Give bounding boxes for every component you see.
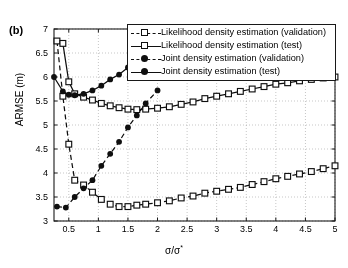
marker-open-square — [332, 163, 338, 169]
marker-open-square — [134, 107, 140, 113]
marker-filled-circle — [72, 194, 78, 200]
marker-open-square — [261, 179, 267, 185]
marker-filled-circle — [81, 91, 87, 97]
marker-filled-circle — [66, 92, 72, 98]
marker-open-square — [116, 204, 122, 210]
marker-open-square — [98, 197, 104, 203]
marker-open-square — [297, 171, 303, 177]
marker-open-square — [202, 96, 208, 102]
marker-open-square — [107, 103, 113, 109]
marker-open-square — [98, 101, 104, 107]
marker-open-square — [214, 93, 220, 99]
marker-filled-circle — [107, 151, 113, 157]
series-3 — [51, 65, 131, 99]
marker-open-square — [273, 176, 279, 182]
marker-open-square — [54, 38, 60, 44]
marker-open-square — [178, 101, 184, 107]
marker-filled-circle — [143, 101, 149, 107]
marker-open-square — [261, 84, 267, 90]
marker-filled-circle — [90, 88, 96, 94]
marker-open-square — [178, 195, 184, 201]
marker-open-square — [237, 185, 243, 191]
marker-open-square — [249, 182, 255, 188]
marker-open-square — [90, 97, 96, 103]
marker-filled-circle — [72, 92, 78, 98]
marker-filled-circle — [90, 177, 96, 183]
marker-open-square — [143, 106, 149, 112]
marker-open-square — [285, 173, 291, 179]
marker-filled-circle — [155, 88, 161, 94]
legend-item: Likelihood density estimation (validatio… — [128, 26, 335, 39]
legend-label: Joint density estimation (test) — [161, 67, 280, 76]
marker-filled-circle — [81, 185, 87, 191]
marker-filled-circle — [60, 89, 66, 95]
marker-open-square — [249, 86, 255, 92]
legend-item: Joint density estimation (test) — [128, 65, 335, 78]
legend-marker-dot — [141, 68, 148, 75]
marker-open-square — [237, 89, 243, 95]
marker-open-square — [116, 105, 122, 111]
marker-open-square — [226, 186, 232, 192]
marker-open-square — [155, 105, 161, 111]
marker-open-square — [66, 79, 72, 85]
marker-open-square — [155, 200, 161, 206]
marker-filled-circle — [134, 113, 140, 119]
marker-open-square — [166, 198, 172, 204]
marker-filled-circle — [116, 72, 122, 78]
legend-label: Likelihood density estimation (validatio… — [161, 28, 326, 37]
legend-marker-square — [141, 29, 148, 36]
marker-filled-circle — [98, 83, 104, 89]
legend-label: Likelihood density estimation (test) — [161, 41, 302, 50]
marker-open-square — [125, 204, 131, 210]
legend-item: Joint density estimation (validation) — [128, 52, 335, 65]
marker-open-square — [273, 81, 279, 87]
legend-marker-square — [141, 42, 148, 49]
marker-open-square — [60, 41, 66, 47]
marker-open-square — [66, 141, 72, 147]
marker-open-square — [190, 99, 196, 105]
legend-sample — [131, 53, 161, 65]
legend-sample — [131, 66, 161, 78]
marker-open-square — [134, 202, 140, 208]
legend-sample — [131, 27, 161, 39]
legend: Likelihood density estimation (validatio… — [127, 24, 336, 81]
marker-open-square — [226, 91, 232, 97]
figure-panel: (b) ARMSE (m) σ/σ* 0.511.522.533.544.55 … — [0, 0, 348, 268]
marker-open-square — [72, 177, 78, 183]
marker-open-square — [308, 169, 314, 175]
legend-sample — [131, 40, 161, 52]
marker-open-square — [202, 190, 208, 196]
marker-open-square — [166, 104, 172, 110]
marker-filled-circle — [63, 205, 69, 211]
marker-filled-circle — [116, 139, 122, 145]
legend-item: Likelihood density estimation (test) — [128, 39, 335, 52]
marker-open-square — [320, 166, 326, 172]
marker-open-square — [125, 106, 131, 112]
legend-label: Joint density estimation (validation) — [161, 54, 304, 63]
marker-open-square — [190, 193, 196, 199]
marker-open-square — [90, 189, 96, 195]
marker-filled-circle — [125, 125, 131, 131]
marker-filled-circle — [98, 163, 104, 169]
marker-open-square — [214, 188, 220, 194]
marker-filled-circle — [107, 77, 113, 83]
marker-filled-circle — [54, 204, 60, 210]
legend-marker-dot — [141, 55, 148, 62]
marker-open-square — [143, 201, 149, 207]
marker-open-square — [107, 201, 113, 207]
marker-filled-circle — [51, 74, 57, 80]
